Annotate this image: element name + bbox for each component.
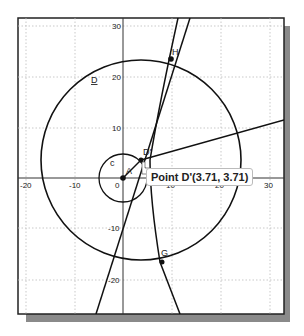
label-point-G: G <box>161 248 168 258</box>
label-circle-D: D <box>91 75 98 85</box>
point-tooltip: Point D'(3.71, 3.71) <box>146 168 253 186</box>
svg-text:10: 10 <box>112 124 121 133</box>
label-point-H: H <box>172 47 179 57</box>
svg-text:20: 20 <box>112 73 121 82</box>
geometry-canvas[interactable]: -20 -10 0 10 20 30 30 20 10 -10 -20 D c … <box>0 0 304 336</box>
point-H[interactable] <box>168 56 174 62</box>
svg-text:30: 30 <box>112 22 121 31</box>
plot-frame <box>18 18 284 314</box>
label-point-D-prime: D' <box>143 147 151 157</box>
svg-text:-20: -20 <box>108 276 120 285</box>
label-circle-c: c <box>110 158 115 168</box>
label-point-A: A <box>126 166 132 176</box>
svg-text:-10: -10 <box>108 224 120 233</box>
svg-text:30: 30 <box>264 181 273 190</box>
point-A[interactable] <box>120 175 126 181</box>
svg-text:-10: -10 <box>69 181 81 190</box>
svg-text:-20: -20 <box>20 181 32 190</box>
point-G[interactable] <box>160 260 165 265</box>
svg-text:0: 0 <box>115 181 120 190</box>
